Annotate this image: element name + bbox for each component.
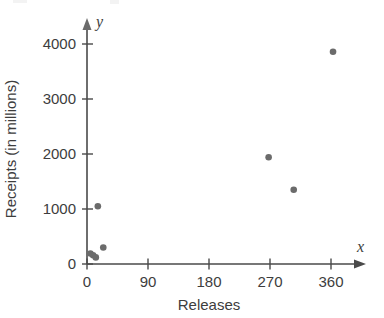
y-tick-label-2000: 2000 xyxy=(43,145,76,162)
x-tick-label-360: 360 xyxy=(318,273,343,290)
y-axis-title: Receipts (in millions) xyxy=(2,80,19,218)
data-point xyxy=(95,203,102,210)
x-axis xyxy=(87,260,366,269)
y-tick-label-4000: 4000 xyxy=(43,35,76,52)
y-axis-symbol: y xyxy=(94,13,104,31)
y-tick-label-0: 0 xyxy=(68,255,76,272)
x-tick-label-90: 90 xyxy=(140,273,157,290)
scatter-chart: 4000 3000 2000 1000 0 0 90 180 270 360 y… xyxy=(0,0,384,318)
y-tick-label-1000: 1000 xyxy=(43,200,76,217)
x-tick-label-180: 180 xyxy=(196,273,221,290)
data-point xyxy=(100,244,107,251)
data-point xyxy=(93,254,100,261)
data-point xyxy=(265,154,272,161)
x-axis-arrowhead xyxy=(354,260,366,269)
x-axis-title: Releases xyxy=(178,296,241,313)
data-point xyxy=(330,48,337,55)
y-tick-labels: 4000 3000 2000 1000 0 xyxy=(43,35,76,272)
y-axis-arrowhead xyxy=(83,18,92,30)
x-axis-symbol: x xyxy=(356,238,364,255)
y-tick-label-3000: 3000 xyxy=(43,90,76,107)
x-tick-label-0: 0 xyxy=(83,273,91,290)
data-points-layer xyxy=(87,48,336,260)
plot-canvas: 4000 3000 2000 1000 0 0 90 180 270 360 y… xyxy=(0,0,384,318)
data-point xyxy=(290,186,297,193)
x-tick-labels: 0 90 180 270 360 xyxy=(83,273,344,290)
y-axis xyxy=(83,18,92,264)
x-tick-label-270: 270 xyxy=(257,273,282,290)
